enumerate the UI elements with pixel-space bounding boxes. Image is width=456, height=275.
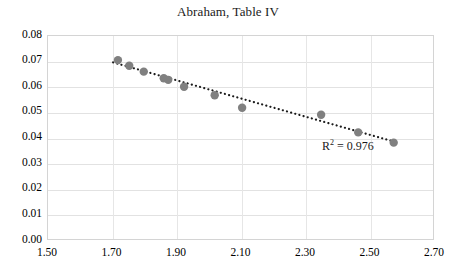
gridline-horizontal xyxy=(48,87,433,88)
x-axis-tick-label: 1.50 xyxy=(17,246,77,258)
r-squared-annotation: R2 = 0.976 xyxy=(322,138,374,154)
y-axis-tick-label: 0.01 xyxy=(0,207,42,219)
x-axis-tick-label: 1.70 xyxy=(82,246,142,258)
y-axis-tick-label: 0.02 xyxy=(0,181,42,193)
chart-container: Abraham, Table IV 0.000.010.020.030.040.… xyxy=(0,0,456,275)
y-axis-tick-label: 0.04 xyxy=(0,130,42,142)
chart-title: Abraham, Table IV xyxy=(0,4,456,20)
gridline-vertical xyxy=(113,36,114,239)
y-axis-tick-label: 0.00 xyxy=(0,233,42,245)
x-axis-tick-label: 2.30 xyxy=(275,246,335,258)
y-axis-tick-label: 0.06 xyxy=(0,79,42,91)
x-axis-tick-label: 1.90 xyxy=(146,246,206,258)
x-axis-tick-label: 2.10 xyxy=(211,246,271,258)
gridline-horizontal xyxy=(48,190,433,191)
y-axis-tick-label: 0.07 xyxy=(0,53,42,65)
plot-area xyxy=(47,35,434,240)
x-axis-tick-label: 2.50 xyxy=(340,246,400,258)
y-axis-tick-label: 0.05 xyxy=(0,104,42,116)
gridline-horizontal xyxy=(48,164,433,165)
gridline-horizontal xyxy=(48,62,433,63)
gridline-vertical xyxy=(177,36,178,239)
y-axis-tick-label: 0.03 xyxy=(0,156,42,168)
gridline-horizontal xyxy=(48,215,433,216)
gridline-vertical xyxy=(242,36,243,239)
gridline-vertical xyxy=(306,36,307,239)
x-axis-tick-label: 2.70 xyxy=(404,246,456,258)
gridline-horizontal xyxy=(48,113,433,114)
gridline-horizontal xyxy=(48,139,433,140)
y-axis-tick-label: 0.08 xyxy=(0,28,42,40)
